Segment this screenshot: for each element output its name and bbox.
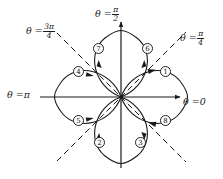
axis-label-theta-zero: θ =0 bbox=[183, 97, 206, 107]
theta-symbol: θ = bbox=[26, 25, 43, 36]
axis-label-theta-3pi-over-4: θ =3π4 bbox=[26, 23, 56, 39]
petal-marker-6: 6 bbox=[142, 43, 153, 54]
axis-label-theta-pi-over-4: θ =π4 bbox=[180, 30, 205, 46]
petal-marker-2: 2 bbox=[94, 137, 105, 148]
axis-label-theta-pi-over-2: θ =π2 bbox=[95, 6, 120, 22]
theta-symbol: θ = bbox=[183, 96, 200, 107]
theta-value: 0 bbox=[200, 96, 206, 107]
fraction-denominator: 2 bbox=[112, 15, 119, 23]
fraction-denominator: 4 bbox=[197, 39, 204, 47]
theta-symbol: θ = bbox=[7, 89, 24, 100]
theta-symbol: θ = bbox=[95, 8, 112, 19]
theta-symbol: θ = bbox=[180, 32, 197, 43]
polar-rose-figure: θ =0 θ =π θ =π2 θ =π4 θ =3π4 1 2 3 4 5 6… bbox=[0, 0, 223, 179]
petal-marker-7: 7 bbox=[93, 43, 104, 54]
fraction-3pi-over-4: 3π4 bbox=[43, 23, 55, 39]
axis-label-theta-pi: θ =π bbox=[7, 90, 30, 100]
petal-marker-8: 8 bbox=[160, 115, 171, 126]
petal-marker-4: 4 bbox=[73, 66, 84, 77]
petal-marker-3: 3 bbox=[135, 137, 146, 148]
petal-marker-5: 5 bbox=[73, 115, 84, 126]
theta-value: π bbox=[24, 89, 30, 100]
fraction-pi-over-2: π2 bbox=[112, 6, 119, 22]
fraction-pi-over-4: π4 bbox=[197, 30, 204, 46]
petal-marker-1: 1 bbox=[160, 66, 171, 77]
fraction-denominator: 4 bbox=[43, 32, 55, 40]
